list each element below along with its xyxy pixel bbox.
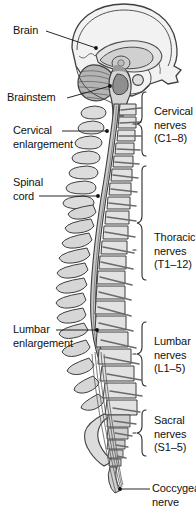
vertebra-c1: [81, 106, 106, 119]
label-spinal-cord: Spinal cord: [13, 176, 43, 203]
pituitary: [133, 75, 144, 86]
label-brain: Brain: [13, 24, 38, 38]
label-lumbar-nerves-line1: Lumbar: [154, 335, 191, 349]
label-lumbar-enlargement: Lumbar enlargement: [13, 323, 73, 350]
bracket-sacral: [137, 410, 146, 456]
spinous-process-6: [56, 278, 87, 293]
spinous-process-7: [56, 293, 86, 308]
vertebra-c3: [75, 136, 102, 149]
label-coccygeal-nerve-line1: Coccygeal: [152, 482, 196, 496]
spinous-process-8: [57, 308, 86, 323]
label-coccygeal-nerve: Coccygeal nerve: [152, 482, 196, 509]
label-cervical-enlargement-line2: enlargement: [13, 138, 73, 152]
label-thoracic-nerves-line2: nerves: [154, 245, 195, 259]
label-coccygeal-nerve-line2: nerve: [152, 496, 196, 510]
dot-coccygeal-nerve: [118, 487, 122, 491]
dot-spinal-cord: [96, 194, 100, 198]
vertebra-c4: [72, 151, 100, 164]
label-cervical-nerves-line2: nerves: [154, 119, 193, 133]
vertebra-c5: [69, 166, 98, 179]
label-cervical-nerves: Cervical nerves (C1–8): [154, 105, 193, 146]
label-spinal-cord-line2: cord: [13, 190, 43, 204]
label-brainstem: Brainstem: [7, 91, 56, 105]
vertebra-c6: [66, 181, 96, 194]
spinous-process-4: [59, 248, 90, 263]
label-thoracic-nerves: Thoracic nerves (T1–12): [154, 231, 195, 272]
label-cervical-nerves-line1: Cervical: [154, 105, 193, 119]
label-cervical-nerves-line3: (C1–8): [154, 132, 193, 146]
label-spinal-cord-line1: Spinal: [13, 176, 43, 190]
label-lumbar-nerves: Lumbar nerves (L1–5): [154, 335, 191, 376]
bracket-lumbar: [137, 322, 146, 386]
label-sacral-nerves-line1: Sacral: [154, 414, 186, 428]
dot-brainstem: [108, 84, 112, 88]
spinous-process-5: [57, 263, 88, 278]
label-lumbar-nerves-line3: (L1–5): [154, 362, 191, 376]
spinous-process-11: [67, 358, 94, 375]
label-sacral-nerves-line3: (S1–5): [154, 441, 186, 455]
label-brainstem-text: Brainstem: [7, 91, 56, 103]
skull-and-brain-group: [72, 4, 181, 116]
label-lumbar-nerves-line2: nerves: [154, 349, 191, 363]
spinous-process-2: [65, 219, 94, 233]
dot-brain: [94, 46, 98, 50]
spinous-process-3: [62, 233, 92, 248]
label-thoracic-nerves-line1: Thoracic: [154, 231, 195, 245]
label-lumbar-enlargement-line2: enlargement: [13, 337, 73, 351]
label-thoracic-nerves-line3: (T1–12): [154, 258, 195, 272]
vertebra-c2: [78, 121, 104, 134]
vertebral-bodies-group: [95, 104, 137, 415]
label-lumbar-enlargement-line1: Lumbar: [13, 323, 73, 337]
label-sacral-nerves: Sacral nerves (S1–5): [154, 414, 186, 455]
label-brain-text: Brain: [13, 24, 38, 36]
bracket-cervical: [137, 92, 146, 156]
spinal-cord-diagram-figure: Brain Brainstem Cervical enlargement Spi…: [0, 0, 196, 517]
thalamus-inner-mark: [118, 60, 124, 66]
label-cervical-enlargement-line1: Cervical: [13, 124, 73, 138]
cervical-vertebrae-group: [63, 106, 106, 209]
label-sacral-nerves-line2: nerves: [154, 428, 186, 442]
dot-cervical-enlargement: [105, 129, 109, 133]
pons-bulge: [113, 74, 128, 95]
label-cervical-enlargement: Cervical enlargement: [13, 124, 73, 151]
bracket-thoracic: [137, 166, 146, 280]
dot-lumbar-enlargement: [95, 328, 99, 332]
